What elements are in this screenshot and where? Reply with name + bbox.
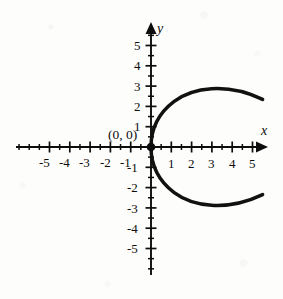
y-tick-label--1: -1: [127, 161, 138, 174]
x-tick-label-4: 4: [229, 157, 236, 170]
coordinate-plane: [0, 0, 283, 299]
y-tick-label-4: 4: [134, 59, 141, 72]
y-tick-label-2: 2: [134, 100, 141, 113]
parabola-upper-branch: [151, 89, 263, 147]
y-tick-label--2: -2: [127, 181, 138, 194]
x-axis-arrowhead: [256, 142, 268, 153]
y-tick-label-5: 5: [134, 39, 141, 52]
graph-figure: -5 -4 -3 -2 -1 1 2 3 4 5 5 4 3 2 1 -1 -2…: [0, 0, 283, 299]
x-tick-label-3: 3: [208, 157, 215, 170]
y-tick-label--5: -5: [127, 242, 138, 255]
y-tick-label--4: -4: [127, 222, 138, 235]
vertex-point-label: (0, 0): [108, 128, 137, 142]
y-axis-name: y: [157, 22, 163, 36]
x-tick-label-5: 5: [249, 157, 256, 170]
x-tick-label--4: -4: [59, 156, 70, 169]
y-axis-arrowhead: [146, 22, 157, 34]
y-tick-label--3: -3: [127, 202, 138, 215]
y-tick-label-3: 3: [134, 80, 141, 93]
x-tick-label--2: -2: [100, 156, 111, 169]
x-tick-label--3: -3: [79, 156, 90, 169]
vertex-point-marker: [147, 143, 156, 152]
x-axis-name: x: [261, 124, 267, 138]
x-tick-label--5: -5: [39, 156, 50, 169]
x-tick-label-2: 2: [188, 157, 195, 170]
x-tick-label-1: 1: [168, 157, 175, 170]
